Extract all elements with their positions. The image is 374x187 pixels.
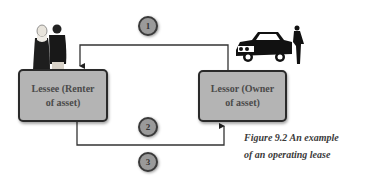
step-3-label: 3 bbox=[146, 157, 151, 167]
operating-lease-diagram: Lessee (Renter of asset) Lessor (Owner o… bbox=[0, 0, 374, 187]
figure-caption: Figure 9.2 An example of an operating le… bbox=[244, 129, 372, 163]
car-with-driver-icon bbox=[234, 24, 312, 68]
step-2-badge: 2 bbox=[138, 117, 158, 137]
caption-line-1: Figure 9.2 An example bbox=[244, 129, 372, 146]
step-2-label: 2 bbox=[146, 122, 151, 132]
lessee-label-line1: Lessee (Renter bbox=[31, 82, 94, 96]
lessor-label-line2: of asset) bbox=[225, 96, 260, 110]
arrow-lessor-to-lessee bbox=[80, 45, 228, 70]
step-1-label: 1 bbox=[146, 21, 151, 31]
lessee-label-line2: of asset) bbox=[46, 96, 81, 110]
caption-line-2: of an operating lease bbox=[244, 146, 372, 163]
step-3-badge: 3 bbox=[138, 152, 158, 172]
lessee-box: Lessee (Renter of asset) bbox=[18, 69, 108, 122]
lessor-box: Lessor (Owner of asset) bbox=[198, 70, 287, 122]
lessor-label-line1: Lessor (Owner bbox=[211, 82, 274, 96]
people-icon bbox=[30, 22, 70, 72]
step-1-badge: 1 bbox=[138, 16, 158, 36]
